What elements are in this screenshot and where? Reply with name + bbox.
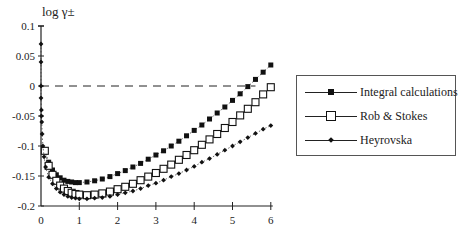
y-tick-label: -0.1 bbox=[18, 140, 35, 152]
data-point-open-square bbox=[152, 170, 159, 177]
y-tick-label: 0.1 bbox=[21, 20, 35, 32]
data-point-diamond bbox=[253, 131, 258, 136]
data-point-open-square bbox=[168, 161, 175, 168]
data-point-filled-square bbox=[268, 63, 273, 68]
data-point-filled-square bbox=[245, 84, 250, 89]
x-tick-label: 1 bbox=[77, 214, 83, 226]
data-point-open-square bbox=[137, 177, 144, 184]
data-point-filled-square bbox=[130, 165, 135, 170]
data-point-filled-square bbox=[238, 91, 243, 96]
data-point-diamond bbox=[39, 60, 44, 65]
data-point-diamond bbox=[39, 120, 44, 125]
data-point-diamond bbox=[39, 108, 44, 113]
x-tick-label: 6 bbox=[268, 214, 274, 226]
series-line bbox=[45, 65, 271, 183]
data-point-open-square bbox=[160, 165, 167, 172]
data-point-filled-square bbox=[222, 105, 227, 110]
data-point-diamond bbox=[39, 96, 44, 101]
data-point-diamond bbox=[245, 135, 250, 140]
data-point-diamond bbox=[169, 174, 174, 179]
x-tick-label: 2 bbox=[115, 214, 121, 226]
data-point-filled-square bbox=[207, 117, 212, 122]
x-tick-label: 5 bbox=[230, 214, 236, 226]
data-point-filled-square bbox=[192, 128, 197, 133]
data-point-diamond bbox=[230, 144, 235, 149]
data-point-filled-square bbox=[107, 174, 112, 179]
data-point-filled-square bbox=[161, 148, 166, 153]
data-point-filled-square bbox=[253, 77, 258, 82]
data-point-filled-square bbox=[230, 98, 235, 103]
data-point-open-square bbox=[145, 173, 152, 180]
data-point-diamond bbox=[215, 152, 220, 157]
data-point-filled-square bbox=[215, 111, 220, 116]
data-point-diamond bbox=[176, 171, 181, 176]
data-point-diamond bbox=[153, 181, 158, 186]
data-point-filled-square bbox=[92, 178, 97, 183]
filled-diamond-marker-icon bbox=[305, 133, 357, 147]
x-tick-label: 3 bbox=[153, 214, 159, 226]
data-point-open-square bbox=[229, 119, 236, 126]
data-point-diamond bbox=[138, 186, 143, 191]
legend-label: Integral calculations bbox=[360, 85, 458, 100]
data-point-diamond bbox=[261, 127, 266, 132]
y-axis-label: log γ± bbox=[42, 4, 75, 20]
y-tick-label: 0 bbox=[30, 80, 36, 92]
data-point-open-square bbox=[252, 99, 259, 106]
data-point-open-square bbox=[114, 186, 121, 193]
data-point-open-square bbox=[122, 183, 129, 190]
y-tick-label: -0.15 bbox=[12, 170, 35, 182]
data-point-filled-square bbox=[184, 133, 189, 138]
filled-square-marker-icon bbox=[305, 85, 357, 99]
data-point-open-square bbox=[198, 141, 205, 148]
data-point-filled-square bbox=[146, 157, 151, 162]
data-point-open-square bbox=[221, 125, 228, 132]
legend: Integral calculations Rob & Stokes Heyro… bbox=[296, 75, 456, 156]
data-point-diamond bbox=[146, 183, 151, 188]
data-point-filled-square bbox=[115, 171, 120, 176]
data-point-diamond bbox=[207, 156, 212, 161]
data-point-open-square bbox=[191, 147, 198, 154]
data-point-diamond bbox=[268, 123, 273, 128]
data-point-open-square bbox=[214, 131, 221, 138]
data-point-filled-square bbox=[261, 70, 266, 75]
data-point-open-square bbox=[183, 152, 190, 159]
data-point-diamond bbox=[39, 84, 44, 89]
data-point-open-square bbox=[244, 105, 251, 112]
data-point-diamond bbox=[39, 114, 44, 119]
series-line bbox=[45, 87, 271, 195]
data-point-diamond bbox=[131, 189, 136, 194]
legend-item-integral: Integral calculations bbox=[305, 85, 458, 99]
data-point-diamond bbox=[192, 164, 197, 169]
data-point-filled-square bbox=[123, 168, 128, 173]
data-point-filled-square bbox=[153, 153, 158, 158]
data-point-diamond bbox=[199, 160, 204, 165]
x-tick-label: 0 bbox=[38, 214, 44, 226]
data-point-diamond bbox=[184, 168, 189, 173]
y-tick-label: 0.05 bbox=[16, 50, 36, 62]
data-point-filled-square bbox=[169, 144, 174, 149]
data-point-open-square bbox=[237, 112, 244, 119]
data-point-diamond bbox=[238, 139, 243, 144]
data-point-diamond bbox=[222, 148, 227, 153]
y-axis-label-text: log γ± bbox=[42, 4, 75, 19]
data-point-open-square bbox=[206, 136, 213, 143]
data-point-filled-square bbox=[77, 180, 82, 185]
data-point-filled-square bbox=[176, 139, 181, 144]
y-tick-label: -0.2 bbox=[18, 200, 35, 212]
legend-label: Heyrovska bbox=[360, 133, 412, 148]
y-tick-label: -0.05 bbox=[12, 110, 35, 122]
data-point-filled-square bbox=[199, 123, 204, 128]
data-point-diamond bbox=[39, 42, 44, 47]
data-point-open-square bbox=[175, 156, 182, 163]
legend-item-heyrovska: Heyrovska bbox=[305, 133, 412, 147]
data-point-diamond bbox=[123, 190, 128, 195]
open-square-marker-icon bbox=[305, 109, 357, 123]
data-point-open-square bbox=[41, 147, 48, 154]
data-point-filled-square bbox=[138, 161, 143, 166]
data-point-diamond bbox=[161, 178, 166, 183]
legend-label: Rob & Stokes bbox=[360, 109, 427, 124]
data-point-open-square bbox=[129, 180, 136, 187]
data-point-open-square bbox=[267, 84, 274, 91]
data-point-filled-square bbox=[84, 180, 89, 185]
data-point-filled-square bbox=[100, 177, 105, 182]
